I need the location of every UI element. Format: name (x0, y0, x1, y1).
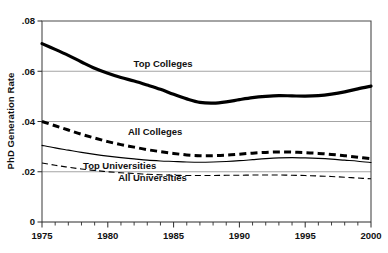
y-axis-title: PhD Generation Rate (5, 73, 16, 170)
y-tick-label-0.06: .06 (22, 66, 35, 77)
series-label-all-colleges: All Colleges (128, 126, 182, 137)
x-tick-label-1985: 1985 (163, 230, 185, 241)
phd-generation-rate-line-chart: 0.02.04.06.08 197519801985199019952000 T… (0, 0, 388, 253)
y-tick-label-0.02: .02 (22, 166, 35, 177)
series-label-top-universities: Top Universities (83, 160, 156, 171)
x-tick-label-1980: 1980 (97, 230, 118, 241)
y-tick-label-0: 0 (30, 216, 35, 227)
x-tick-label-1995: 1995 (295, 230, 317, 241)
y-tick-label-0.08: .08 (22, 15, 35, 26)
x-tick-label-1990: 1990 (229, 230, 250, 241)
series-label-top-colleges: Top Colleges (134, 58, 193, 69)
series-label-all-universities: All Universities (118, 172, 187, 183)
y-tick-label-0.04: .04 (22, 116, 36, 127)
x-tick-label-2000: 2000 (360, 230, 381, 241)
chart-container: 0.02.04.06.08 197519801985199019952000 T… (0, 0, 388, 253)
x-tick-label-1975: 1975 (31, 230, 53, 241)
